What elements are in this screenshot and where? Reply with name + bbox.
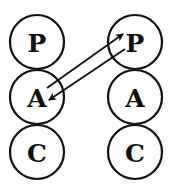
- right-adult-label: A: [124, 84, 145, 113]
- left-adult-state: A: [10, 70, 64, 124]
- right-parent-label: P: [126, 29, 145, 58]
- left-child-label: C: [27, 139, 47, 168]
- left-child-state: C: [10, 125, 64, 179]
- left-adult-label: A: [26, 84, 47, 113]
- pac-diagram: P A C P A C: [0, 0, 172, 187]
- right-parent-state: P: [108, 15, 162, 69]
- right-child-label: C: [125, 139, 145, 168]
- left-parent-state: P: [10, 15, 64, 69]
- left-parent-label: P: [28, 29, 47, 58]
- right-child-state: C: [108, 125, 162, 179]
- right-adult-state: A: [108, 70, 162, 124]
- left-person-ego-states: P A C: [10, 15, 64, 179]
